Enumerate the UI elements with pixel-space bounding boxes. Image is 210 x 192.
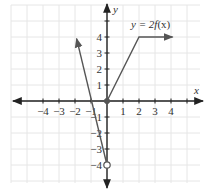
x-tick-label: −3 [53,105,65,117]
x-tick-label: 4 [168,105,174,117]
y-tick-label: 4 [97,31,103,43]
x-tick-label: 1 [120,105,126,117]
x-tick-label: −4 [37,105,49,117]
y-axis-label: y [112,3,118,15]
axes [13,4,203,188]
y-tick-label: −3 [90,143,102,155]
x-tick-label: −2 [69,105,81,117]
y-tick-label: −4 [90,159,102,171]
x-tick-label: 3 [152,105,158,117]
y-tick-label: 3 [97,47,103,59]
x-axis-label: x [193,84,199,96]
open-circle-endpoint [104,162,110,168]
y-tick-label: 1 [97,79,103,91]
coordinate-graph: −4−3−2−11234−4−3−2−11234 x y y = 2f(x) [0,0,210,192]
y-tick-label: 2 [97,63,103,75]
x-tick-label: 2 [136,105,142,117]
function-label: y = 2f(x) [130,18,171,31]
closed-dot-endpoint [104,98,109,103]
